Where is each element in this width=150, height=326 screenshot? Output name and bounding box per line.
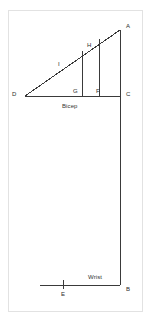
diagram-canvas: A B C D E F G H I Bicep Wrist [0,0,150,326]
segment-hypotenuse-D-A [25,30,120,96]
vertex-label-D: D [12,91,16,97]
vertex-label-E: E [61,291,65,297]
vertex-label-C: C [126,91,130,97]
vertex-label-I: I [58,61,60,67]
bicep-measurement-label: Bicep [62,103,78,109]
vertex-label-A: A [126,23,130,29]
vertex-label-G: G [73,88,78,94]
wrist-measurement-label: Wrist [88,274,102,280]
vertex-label-H: H [87,42,91,48]
vertex-label-F: F [96,88,100,94]
diagram-lines [0,0,150,326]
vertex-label-B: B [126,286,130,292]
